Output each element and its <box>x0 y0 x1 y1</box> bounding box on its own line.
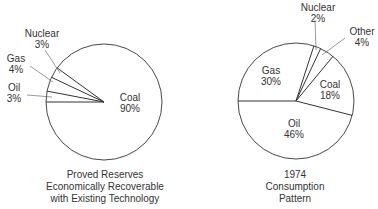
leader-line-nuclear <box>45 50 60 73</box>
label-coal-name: Coal <box>120 92 141 103</box>
label-oil-pct: 3% <box>7 93 22 104</box>
label-gas-name: Gas <box>7 53 25 64</box>
label-nuclear-name: Nuclear <box>301 2 336 13</box>
consumption-pie: Nuclear 2% Other 4% Gas 30% Coal 18% Oil… <box>238 2 375 204</box>
label-coal-pct: 18% <box>320 90 340 101</box>
label-nuclear-pct: 3% <box>35 39 50 50</box>
consumption-caption-line3: Pattern <box>279 193 311 204</box>
reserves-caption-line1: Proved Reserves <box>67 169 144 180</box>
consumption-caption-line2: Consumption <box>266 181 325 192</box>
label-gas-name: Gas <box>262 65 280 76</box>
label-nuclear-pct: 2% <box>311 13 326 24</box>
label-oil-name: Oil <box>288 118 300 129</box>
label-oil-pct: 46% <box>284 129 304 140</box>
label-gas-pct: 30% <box>261 76 281 87</box>
label-gas-pct: 4% <box>9 64 24 75</box>
reserves-caption-line3: with Existing Technology <box>50 193 160 204</box>
consumption-caption-line1: 1974 <box>284 169 307 180</box>
label-coal-name: Coal <box>320 79 341 90</box>
leader-line-gas <box>30 66 53 82</box>
reserves-caption-line2: Economically Recoverable <box>46 181 164 192</box>
label-coal-pct: 90% <box>120 103 140 114</box>
label-other-pct: 4% <box>355 37 370 48</box>
reserves-pie: Nuclear 3% Gas 4% Oil 3% Coal 90% Proved… <box>7 28 165 204</box>
label-nuclear-name: Nuclear <box>25 28 60 39</box>
label-oil-name: Oil <box>8 82 20 93</box>
label-other-name: Other <box>349 26 375 37</box>
leader-line-other <box>322 38 345 55</box>
leader-line-nuclear <box>315 20 316 50</box>
energy-pie-charts: Nuclear 3% Gas 4% Oil 3% Coal 90% Proved… <box>0 0 378 209</box>
